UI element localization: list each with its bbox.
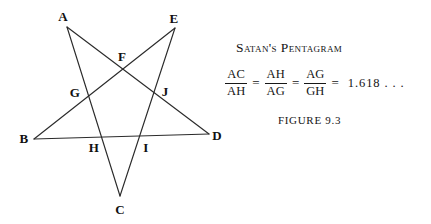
pentagram-edge-ad	[67, 27, 209, 134]
pentagram-line-art	[0, 0, 240, 224]
fraction-3: AGGH	[304, 68, 326, 98]
vertex-label-d: D	[212, 129, 222, 142]
figure-caption: FIGURE 9.3	[222, 114, 397, 126]
equals-sign-2: =	[288, 75, 303, 91]
figure-title: Satan's Pentagram	[236, 40, 342, 56]
intersection-label-i: I	[143, 141, 148, 154]
pentagram-edge-bd	[34, 134, 209, 139]
fraction-3-numerator: AG	[304, 68, 326, 83]
fraction-2-denominator: AG	[265, 83, 287, 99]
intersection-label-j: J	[162, 85, 169, 98]
fraction-1-numerator: AC	[225, 68, 247, 83]
intersection-label-g: G	[70, 86, 80, 99]
fraction-1: ACAH	[225, 68, 247, 98]
fraction-2: AHAG	[265, 68, 287, 98]
pentagram-edge-be	[34, 28, 175, 139]
pentagram-edge-ce	[120, 28, 175, 196]
pentagram-diagram: AEBDCFGJHI	[0, 0, 240, 224]
fraction-3-denominator: GH	[304, 83, 326, 99]
figure-root: AEBDCFGJHI Satan's Pentagram ACAH=AHAG=A…	[0, 0, 431, 224]
vertex-label-a: A	[58, 10, 68, 23]
golden-ratio-equation: ACAH=AHAG=AGGH=1.618 . . .	[224, 68, 405, 98]
caption-block: Satan's Pentagram ACAH=AHAG=AGGH=1.618 .…	[222, 0, 431, 224]
intersection-label-h: H	[89, 141, 99, 154]
fraction-1-denominator: AH	[225, 83, 247, 99]
pentagram-edge-ac	[67, 27, 120, 196]
intersection-label-f: F	[118, 50, 126, 63]
vertex-label-b: B	[20, 132, 29, 145]
equals-sign-final: =	[327, 75, 342, 91]
vertex-label-e: E	[170, 12, 179, 25]
vertex-label-c: C	[115, 203, 125, 216]
golden-ratio-value: 1.618 . . .	[343, 76, 405, 91]
equals-sign-1: =	[248, 75, 263, 91]
fraction-2-numerator: AH	[265, 68, 287, 83]
